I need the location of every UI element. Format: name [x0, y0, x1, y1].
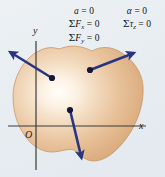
y-axis-label: y: [33, 26, 37, 36]
equilibrium-figure: a = 0 ΣFx = 0 ΣFy = 0 α = 0 Στz = 0 y x …: [0, 0, 165, 177]
translational-equilibrium-equations: a = 0 ΣFx = 0 ΣFy = 0: [58, 6, 110, 47]
blob-highlight: [32, 71, 84, 113]
rotational-equilibrium-equations: α = 0 Στz = 0: [112, 6, 162, 32]
origin-label: O: [25, 130, 32, 140]
equation-sum-tau-z-zero: Στz = 0: [112, 18, 162, 33]
x-axis-label: x: [139, 121, 143, 131]
equation-alpha-zero: α = 0: [112, 6, 162, 18]
equation-a-zero: a = 0: [58, 6, 110, 18]
equation-sum-fy-zero: ΣFy = 0: [58, 32, 110, 47]
equation-sum-fx-zero: ΣFx = 0: [58, 18, 110, 33]
